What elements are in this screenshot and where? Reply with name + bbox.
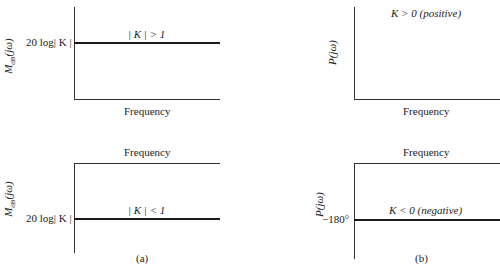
phase-annotation: K > 0 (positive) — [391, 8, 461, 19]
x-axis-label: Frequency — [124, 106, 170, 117]
y-axis — [74, 163, 75, 253]
y-axis-label: MdB(jω) — [3, 181, 17, 217]
x-axis — [74, 99, 220, 100]
y-axis — [354, 163, 355, 259]
x-axis-top — [74, 163, 220, 164]
y-axis-label: MdB(jω) — [3, 38, 17, 74]
phase-tick-label: −180° — [322, 214, 349, 225]
gain-line — [74, 42, 220, 44]
gain-tick-label: 20 log| K | — [26, 37, 72, 48]
phase-line — [354, 219, 500, 221]
gain-annotation: | K | > 1 — [128, 29, 165, 40]
caption-a: (a) — [136, 253, 148, 264]
phase-annotation: K < 0 (negative) — [389, 205, 462, 216]
x-axis-label: Frequency — [403, 147, 449, 158]
gain-tick-label: 20 log| K | — [26, 213, 72, 224]
x-axis-label: Frequency — [124, 147, 170, 158]
x-axis-label: Frequency — [403, 106, 449, 117]
y-axis-label: P(jω) — [327, 40, 338, 65]
caption-b: (b) — [415, 253, 428, 264]
gain-line — [74, 218, 220, 220]
y-axis-label: P(jω) — [314, 192, 325, 217]
y-axis — [74, 7, 75, 99]
x-axis — [354, 99, 500, 100]
gain-annotation: | K | < 1 — [128, 205, 165, 216]
x-axis-top — [354, 163, 500, 164]
y-axis — [354, 7, 355, 99]
